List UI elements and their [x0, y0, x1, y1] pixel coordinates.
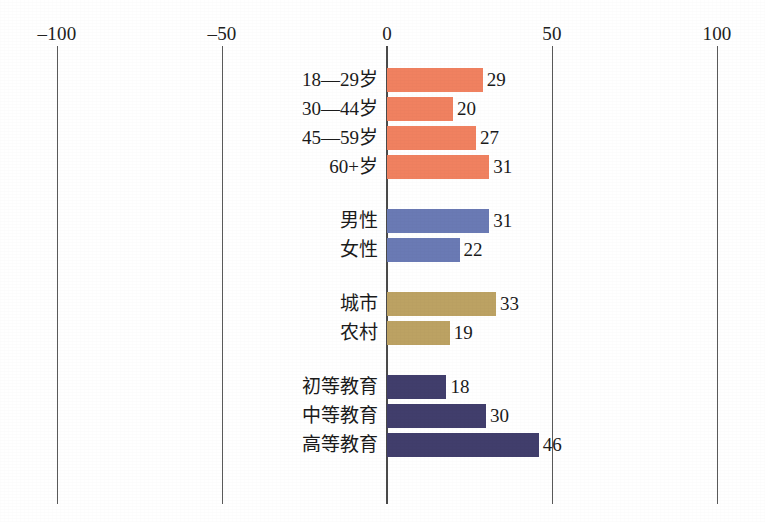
bar-residence	[387, 321, 450, 345]
bar-category-label: 女性	[340, 237, 387, 263]
bar-value-label: 29	[483, 67, 506, 93]
bar-row: 中等教育30	[0, 403, 765, 429]
bar-category-label: 男性	[340, 208, 387, 234]
horizontal-bar-chart: –100–50050100 18—29岁2930—44岁2045—59岁2760…	[0, 0, 765, 522]
bar-age	[387, 68, 483, 92]
bar-row: 60+岁31	[0, 154, 765, 180]
bar-category-label: 30—44岁	[302, 96, 387, 122]
bar-value-label: 20	[453, 96, 476, 122]
bar-age	[387, 155, 489, 179]
bar-category-label: 初等教育	[302, 374, 387, 400]
bar-value-label: 18	[446, 374, 469, 400]
bar-value-label: 31	[489, 154, 512, 180]
bar-category-label: 60+岁	[329, 154, 387, 180]
chart-bars-area: 18—29岁2930—44岁2045—59岁2760+岁31男性31女性22城市…	[0, 0, 765, 522]
bar-value-label: 30	[486, 403, 509, 429]
bar-value-label: 19	[450, 320, 473, 346]
bar-row: 45—59岁27	[0, 125, 765, 151]
bar-education	[387, 433, 539, 457]
bar-row: 30—44岁20	[0, 96, 765, 122]
bar-value-label: 31	[489, 208, 512, 234]
bar-gender	[387, 209, 489, 233]
bar-age	[387, 126, 476, 150]
bar-category-label: 45—59岁	[302, 125, 387, 151]
bar-category-label: 高等教育	[302, 432, 387, 458]
bar-residence	[387, 292, 496, 316]
bar-row: 高等教育46	[0, 432, 765, 458]
bar-value-label: 22	[460, 237, 483, 263]
bar-age	[387, 97, 453, 121]
bar-row: 男性31	[0, 208, 765, 234]
bar-category-label: 城市	[340, 291, 387, 317]
bar-category-label: 农村	[340, 320, 387, 346]
bar-category-label: 18—29岁	[302, 67, 387, 93]
bar-row: 城市33	[0, 291, 765, 317]
bar-value-label: 33	[496, 291, 519, 317]
bar-education	[387, 375, 446, 399]
bar-value-label: 46	[539, 432, 562, 458]
bar-education	[387, 404, 486, 428]
bar-category-label: 中等教育	[302, 403, 387, 429]
bar-row: 初等教育18	[0, 374, 765, 400]
bar-value-label: 27	[476, 125, 499, 151]
bar-row: 女性22	[0, 237, 765, 263]
bar-gender	[387, 238, 460, 262]
bar-row: 18—29岁29	[0, 67, 765, 93]
bar-row: 农村19	[0, 320, 765, 346]
